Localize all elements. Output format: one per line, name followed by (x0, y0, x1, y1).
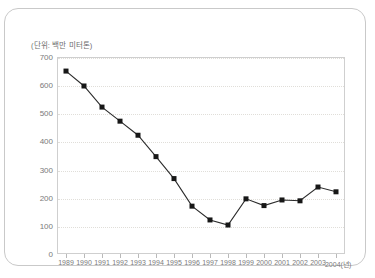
gridline (58, 227, 344, 228)
gridline (58, 171, 344, 172)
y-tick-label: 600 (40, 81, 53, 90)
x-tick-label: 2000 (256, 259, 272, 266)
y-axis: 7006005004003002001000 (27, 9, 53, 278)
y-tick-label: 100 (40, 221, 53, 230)
plot-area (57, 57, 345, 254)
x-tick (138, 254, 139, 258)
x-tick-label: 1997 (202, 259, 218, 266)
x-tick (300, 254, 301, 258)
x-tick (336, 254, 337, 258)
x-tick (210, 254, 211, 258)
x-tick (84, 254, 85, 258)
x-tick-label: 1993 (130, 259, 146, 266)
x-tick (120, 254, 121, 258)
gridline (58, 86, 344, 87)
x-tick-label: 2004(년) (325, 259, 351, 269)
x-tick (282, 254, 283, 258)
chart-card: (단위: 백만 미터톤) 7006005004003002001000 1989… (4, 8, 366, 266)
x-tick (174, 254, 175, 258)
x-tick-label: 1995 (166, 259, 182, 266)
x-tick (66, 254, 67, 258)
y-tick-label: 0 (49, 250, 53, 259)
gridline (58, 58, 344, 59)
x-tick (318, 254, 319, 258)
y-tick-label: 400 (40, 137, 53, 146)
x-tick (192, 254, 193, 258)
y-tick-label: 200 (40, 193, 53, 202)
gridline (58, 142, 344, 143)
x-tick (246, 254, 247, 258)
x-tick-label: 1994 (148, 259, 164, 266)
y-tick-label: 300 (40, 165, 53, 174)
x-tick-label: 1992 (112, 259, 128, 266)
x-tick (264, 254, 265, 258)
x-tick-label: 2003 (310, 259, 326, 266)
x-tick-label: 1990 (76, 259, 92, 266)
x-tick-label: 1991 (94, 259, 110, 266)
x-tick (228, 254, 229, 258)
x-tick-label: 1996 (184, 259, 200, 266)
gridline (58, 114, 344, 115)
x-tick (102, 254, 103, 258)
y-tick-label: 700 (40, 53, 53, 62)
x-tick (156, 254, 157, 258)
y-tick-label: 500 (40, 109, 53, 118)
x-tick-label: 1998 (220, 259, 236, 266)
x-tick-label: 1999 (238, 259, 254, 266)
x-tick-label: 1989 (58, 259, 74, 266)
x-tick-label: 2001 (274, 259, 290, 266)
gridline (58, 199, 344, 200)
x-tick-label: 2002 (292, 259, 308, 266)
